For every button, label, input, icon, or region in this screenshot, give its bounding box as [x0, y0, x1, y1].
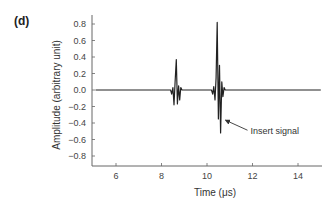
y-tick-label: −0.4 [68, 118, 86, 128]
y-tick-label: 0.2 [73, 69, 86, 79]
y-axis-title: Amplitude (arbitrary unit) [51, 40, 62, 149]
y-tick-label: 0.8 [73, 19, 86, 29]
x-tick-label: 14 [293, 171, 303, 181]
x-tick-label: 12 [247, 171, 257, 181]
x-axis-title: Time (μs) [194, 187, 236, 198]
annotation-insert-signal: Insert signal [251, 126, 300, 136]
y-tick-label: 0.0 [73, 85, 86, 95]
ticks: 0.80.60.40.20.0−0.2−0.4−0.6−0.868101214 [68, 19, 303, 181]
annotations: Insert signal [226, 120, 300, 136]
y-tick-label: −0.2 [68, 102, 86, 112]
x-tick-label: 10 [202, 171, 212, 181]
y-tick-label: 0.6 [73, 36, 86, 46]
y-tick-label: −0.8 [68, 151, 86, 161]
amplitude-time-chart: 0.80.60.40.20.0−0.2−0.4−0.6−0.868101214 … [0, 0, 334, 214]
signal-series [96, 22, 321, 132]
x-tick-label: 8 [159, 171, 164, 181]
x-tick-label: 6 [113, 171, 118, 181]
annotation-arrow [226, 120, 248, 130]
signal-line [96, 22, 321, 132]
y-tick-label: −0.6 [68, 135, 86, 145]
y-tick-label: 0.4 [73, 52, 86, 62]
